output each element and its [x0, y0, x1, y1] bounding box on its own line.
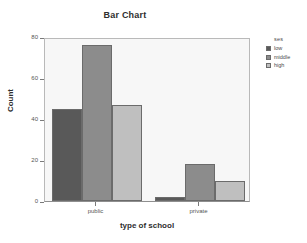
legend-label: low — [274, 45, 282, 52]
bar-public-middle — [82, 45, 112, 201]
plot-area — [44, 38, 250, 202]
x-tick-label: public — [66, 208, 126, 214]
bar-chart: Bar Chart Count 020406080 publicprivate … — [0, 0, 307, 243]
legend: ses lowmiddlehigh — [266, 36, 306, 71]
bar-public-low — [52, 109, 82, 201]
y-tick-label: 60 — [31, 74, 38, 83]
x-tick-mark — [95, 202, 96, 206]
x-tick-mark — [198, 202, 199, 206]
x-axis-label: type of school — [44, 221, 250, 230]
legend-item-low[interactable]: low — [266, 45, 306, 52]
y-tick-label: 0 — [35, 197, 38, 206]
legend-swatch-icon — [266, 55, 271, 60]
legend-entries: lowmiddlehigh — [266, 45, 306, 69]
legend-label: high — [274, 62, 284, 69]
legend-item-high[interactable]: high — [266, 62, 306, 69]
legend-title: ses — [274, 36, 306, 43]
chart-title: Bar Chart — [0, 10, 250, 20]
y-tick-label: 40 — [31, 115, 38, 124]
legend-swatch-icon — [266, 46, 271, 51]
y-tick-label: 20 — [31, 156, 38, 165]
legend-item-middle[interactable]: middle — [266, 54, 306, 61]
bars-container — [45, 39, 249, 201]
bar-public-high — [112, 105, 142, 201]
bar-private-low — [155, 197, 185, 201]
x-tick-label: private — [169, 208, 229, 214]
y-tick-label: 80 — [31, 33, 38, 42]
legend-label: middle — [274, 54, 290, 61]
y-axis: 020406080 — [0, 38, 44, 202]
bar-private-high — [215, 181, 245, 202]
legend-swatch-icon — [266, 63, 271, 68]
bar-private-middle — [185, 164, 215, 201]
